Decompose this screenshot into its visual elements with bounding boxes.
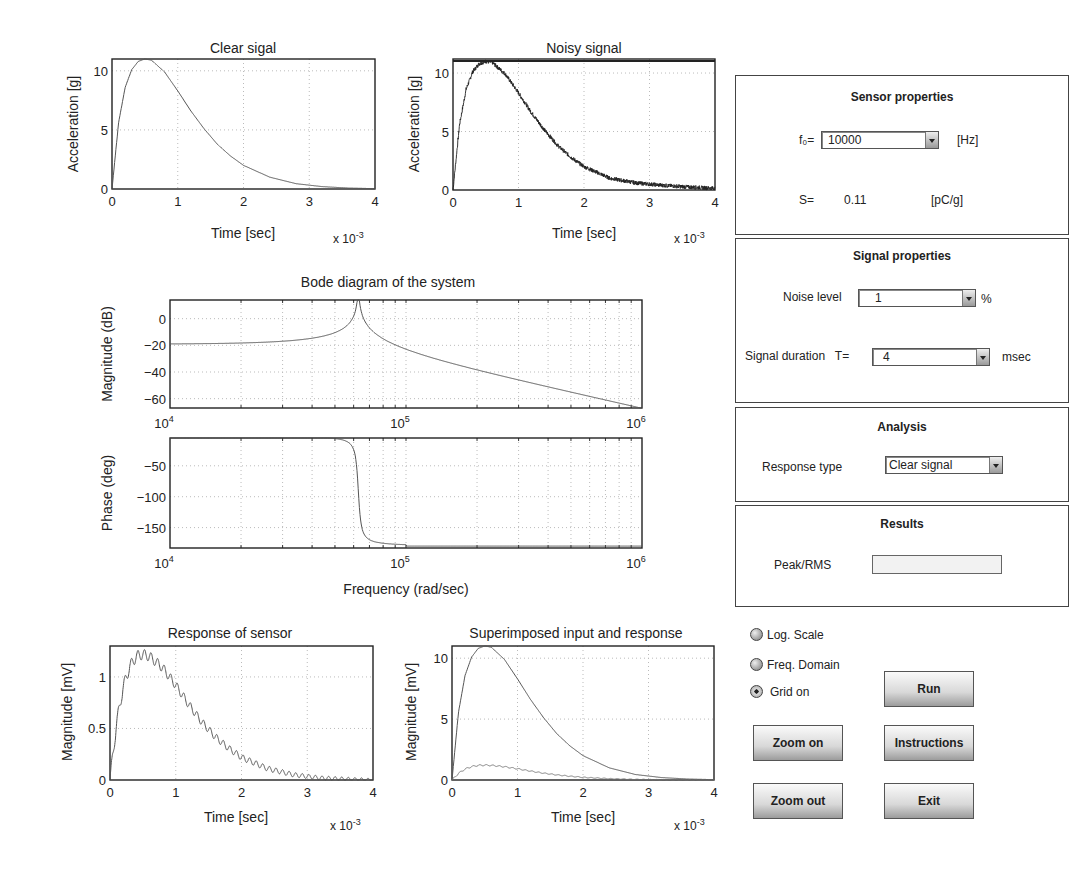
noise-level-unit: %: [981, 292, 992, 306]
x-axis-label: Time [sec]: [552, 225, 616, 241]
plot-title: Clear sigal: [210, 40, 276, 56]
svg-text:−40: −40: [144, 365, 166, 380]
svg-text:0: 0: [108, 194, 115, 209]
run-button[interactable]: Run: [884, 671, 974, 707]
svg-text:2: 2: [580, 195, 587, 210]
svg-text:4: 4: [711, 195, 718, 210]
svg-text:3: 3: [304, 785, 311, 800]
f0-unit: [Hz]: [957, 133, 978, 147]
panel-title: Signal properties: [736, 249, 1068, 263]
radio-icon: [750, 658, 763, 671]
plots-canvas: Clear sigal 012340510 Time [sec] Acceler…: [0, 0, 735, 886]
analysis-panel: Analysis Response type Clear signal: [735, 407, 1069, 502]
radio-selected-icon: [750, 685, 763, 698]
svg-text:−20: −20: [144, 338, 166, 353]
svg-text:5: 5: [441, 712, 448, 727]
panel-title: Sensor properties: [736, 90, 1068, 104]
svg-text:1: 1: [174, 194, 181, 209]
svg-text:2: 2: [579, 785, 586, 800]
radio-icon: [750, 628, 763, 641]
option-label: Log. Scale: [767, 628, 824, 642]
sensor-properties-panel: Sensor properties f₀= 10000 [Hz] S= 0.11…: [735, 75, 1069, 235]
svg-text:10: 10: [94, 64, 108, 79]
clear-signal-plot: Clear sigal 012340510 Time [sec] Acceler…: [65, 40, 379, 246]
svg-text:0: 0: [441, 773, 448, 788]
zoom-on-button[interactable]: Zoom on: [753, 725, 843, 761]
f0-dropdown[interactable]: 10000: [821, 131, 939, 149]
chevron-down-icon[interactable]: [925, 132, 938, 148]
noise-level-value: 1: [865, 291, 882, 305]
log-scale-radio[interactable]: Log. Scale: [750, 628, 824, 642]
panel-title: Results: [736, 517, 1068, 531]
svg-text:−100: −100: [137, 490, 166, 505]
chevron-down-icon[interactable]: [989, 457, 1002, 473]
peak-rms-output: [872, 555, 1002, 574]
plot-title: Bode diagram of the system: [301, 274, 475, 290]
x-axis-label: Frequency (rad/sec): [343, 581, 468, 597]
svg-text:105: 105: [390, 414, 409, 431]
noisy-signal-plot: Noisy signal 012340510 Time [sec] Accele…: [406, 40, 719, 246]
x-scale-exponent: x 10-3: [330, 817, 361, 833]
svg-text:0: 0: [159, 312, 166, 327]
y-axis-label: Acceleration [g]: [406, 76, 422, 173]
signal-properties-panel: Signal properties Noise level 1 % Signal…: [735, 238, 1069, 403]
svg-text:1: 1: [514, 785, 521, 800]
f0-value: 10000: [828, 133, 861, 147]
signal-duration-label: Signal duration T=: [745, 349, 849, 363]
chevron-down-icon[interactable]: [962, 290, 975, 306]
svg-text:1: 1: [172, 785, 179, 800]
plot-title: Response of sensor: [168, 625, 293, 641]
response-type-label: Response type: [762, 460, 842, 474]
freq-domain-radio[interactable]: Freq. Domain: [750, 658, 840, 672]
plot-title: Superimposed input and response: [469, 625, 682, 641]
svg-text:3: 3: [306, 194, 313, 209]
zoom-out-button[interactable]: Zoom out: [753, 783, 843, 819]
svg-text:4: 4: [710, 785, 717, 800]
svg-text:106: 106: [626, 414, 645, 431]
option-label: Grid on: [770, 685, 809, 699]
signal-duration-dropdown[interactable]: 4: [872, 348, 990, 366]
results-panel: Results Peak/RMS: [735, 505, 1069, 607]
y-axis-label: Magnitude [mV]: [59, 663, 75, 761]
x-scale-exponent: x 10-3: [674, 817, 705, 833]
svg-text:−50: −50: [144, 459, 166, 474]
superimposed-plot: Superimposed input and response 01234051…: [403, 625, 718, 833]
svg-text:3: 3: [645, 785, 652, 800]
f0-label: f₀=: [799, 133, 814, 147]
svg-text:10: 10: [435, 66, 449, 81]
x-scale-exponent: x 10-3: [333, 230, 364, 246]
svg-text:0: 0: [449, 195, 456, 210]
chevron-down-icon[interactable]: [976, 349, 989, 365]
sensitivity-unit: [pC/g]: [931, 193, 963, 207]
exit-button[interactable]: Exit: [884, 783, 974, 819]
svg-text:1: 1: [515, 195, 522, 210]
svg-text:10: 10: [434, 651, 448, 666]
peak-rms-label: Peak/RMS: [774, 558, 831, 572]
svg-text:2: 2: [240, 194, 247, 209]
svg-text:0.5: 0.5: [88, 721, 106, 736]
svg-text:1: 1: [99, 670, 106, 685]
plot-title: Noisy signal: [546, 40, 621, 56]
svg-text:0: 0: [442, 183, 449, 198]
bode-diagram: Bode diagram of the system 1041051060−20…: [99, 274, 646, 597]
signal-duration-value: 4: [879, 350, 890, 364]
response-type-value: Clear signal: [889, 458, 952, 472]
svg-text:106: 106: [626, 554, 645, 571]
sensitivity-value: 0.11: [844, 193, 866, 207]
svg-text:0: 0: [101, 182, 108, 197]
x-axis-label: Time [sec]: [211, 225, 275, 241]
svg-text:0: 0: [106, 785, 113, 800]
response-type-dropdown[interactable]: Clear signal: [885, 456, 1003, 474]
svg-text:−60: −60: [144, 392, 166, 407]
x-axis-label: Time [sec]: [551, 809, 615, 825]
noise-level-label: Noise level: [783, 290, 842, 304]
svg-text:105: 105: [390, 554, 409, 571]
instructions-button[interactable]: Instructions: [884, 725, 974, 761]
grid-on-radio[interactable]: Grid on: [750, 685, 809, 699]
svg-text:0: 0: [448, 785, 455, 800]
svg-text:−150: −150: [137, 521, 166, 536]
s-label: S=: [799, 193, 814, 207]
noise-level-dropdown[interactable]: 1: [858, 289, 976, 307]
x-axis-label: Time [sec]: [204, 809, 268, 825]
signal-duration-unit: msec: [1002, 350, 1031, 364]
